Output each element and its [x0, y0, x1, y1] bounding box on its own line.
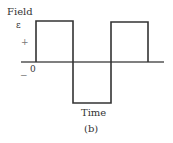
- figure-caption: (b): [84, 124, 98, 134]
- x-axis-label: Time: [81, 108, 106, 118]
- amplitude-label: ε: [16, 21, 21, 30]
- minus-sign: −: [20, 71, 28, 80]
- y-axis-label: Field: [7, 7, 33, 17]
- plus-sign: +: [21, 38, 29, 47]
- origin-label: 0: [30, 65, 36, 74]
